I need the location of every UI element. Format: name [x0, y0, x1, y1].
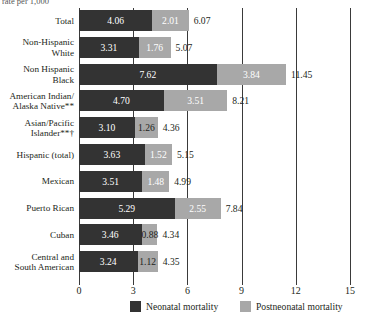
legend-swatch-neonatal: [130, 301, 141, 312]
value-label-postneonatal: 3.51: [164, 90, 227, 111]
row-label: Cuban: [0, 230, 74, 240]
value-label-total: 5.15: [177, 144, 194, 165]
value-label-postneonatal: 2.01: [152, 10, 188, 31]
value-label-total: 7.84: [226, 198, 243, 219]
bar-row: Non-Hispanic White3.311.765.07: [0, 37, 366, 58]
value-label-total: 6.07: [194, 10, 211, 31]
value-label-total: 4.99: [174, 171, 191, 192]
legend-item-neonatal: Neonatal mortality: [130, 299, 218, 313]
row-label: Total: [0, 15, 74, 25]
value-label-total: 11.45: [291, 64, 312, 85]
bar-row: Mexican3.511.484.99: [0, 171, 366, 192]
row-label: Puerto Rican: [0, 203, 74, 213]
value-label-postneonatal: 1.12: [138, 251, 158, 272]
x-tick-label-6: 6: [185, 285, 190, 296]
infant-mortality-bar-chart: rate per 1,000 Total4.062.016.07Non-Hisp…: [0, 0, 366, 317]
value-label-neonatal: 3.10: [79, 117, 135, 138]
x-tick-label-12: 12: [291, 285, 301, 296]
value-label-postneonatal: 1.48: [142, 171, 169, 192]
legend-item-postneonatal: Postneonatal mortality: [240, 299, 343, 313]
value-label-total: 5.07: [176, 37, 193, 58]
legend-label-postneonatal: Postneonatal mortality: [256, 301, 343, 312]
legend-swatch-postneonatal: [240, 301, 251, 312]
row-label: Mexican: [0, 176, 74, 186]
value-label-postneonatal: 1.26: [135, 117, 158, 138]
bar-row: Asian/Pacific Islander**†3.101.264.36: [0, 117, 366, 138]
value-label-total: 8.21: [232, 90, 249, 111]
row-label: Asian/Pacific Islander**†: [0, 117, 74, 138]
bar-row: Total4.062.016.07: [0, 10, 366, 31]
bar-row: Non Hispanic Black7.623.8411.45: [0, 64, 366, 85]
x-tick-label-15: 15: [345, 285, 355, 296]
x-tick-label-9: 9: [239, 285, 244, 296]
value-label-postneonatal: 1.76: [139, 37, 171, 58]
value-label-neonatal: 3.46: [79, 224, 142, 245]
value-label-postneonatal: 2.55: [175, 198, 221, 219]
value-label-neonatal: 3.31: [79, 37, 139, 58]
bar-row: Puerto Rican5.292.557.84: [0, 198, 366, 219]
x-tick-label-0: 0: [77, 285, 82, 296]
bar-row: Central and South American3.241.124.35: [0, 251, 366, 272]
value-label-postneonatal: 1.52: [145, 144, 172, 165]
x-tick-label-3: 3: [131, 285, 136, 296]
value-label-neonatal: 4.70: [79, 90, 164, 111]
row-label: American Indian/ Alaska Native**: [0, 90, 74, 111]
value-label-postneonatal: 3.84: [217, 64, 286, 85]
bar-row: Cuban3.460.884.34: [0, 224, 366, 245]
value-label-neonatal: 3.63: [79, 144, 145, 165]
bar-row: Hispanic (total)3.631.525.15: [0, 144, 366, 165]
row-label: Hispanic (total): [0, 149, 74, 159]
legend-label-neonatal: Neonatal mortality: [146, 301, 218, 312]
value-label-neonatal: 4.06: [79, 10, 152, 31]
value-label-total: 4.35: [163, 251, 180, 272]
plot-area: Total4.062.016.07Non-Hispanic White3.311…: [0, 0, 366, 290]
value-label-total: 4.36: [163, 117, 180, 138]
row-label: Central and South American: [0, 251, 74, 272]
value-label-neonatal: 3.24: [79, 251, 138, 272]
chart-legend: Neonatal mortalityPostneonatal mortality: [0, 299, 366, 315]
value-label-total: 4.34: [162, 224, 179, 245]
value-label-neonatal: 3.51: [79, 171, 142, 192]
row-label: Non Hispanic Black: [0, 64, 74, 85]
bar-row: American Indian/ Alaska Native**4.703.51…: [0, 90, 366, 111]
value-label-neonatal: 7.62: [79, 64, 217, 85]
value-label-neonatal: 5.29: [79, 198, 175, 219]
row-label: Non-Hispanic White: [0, 37, 74, 58]
value-label-postneonatal: 0.88: [142, 224, 158, 245]
